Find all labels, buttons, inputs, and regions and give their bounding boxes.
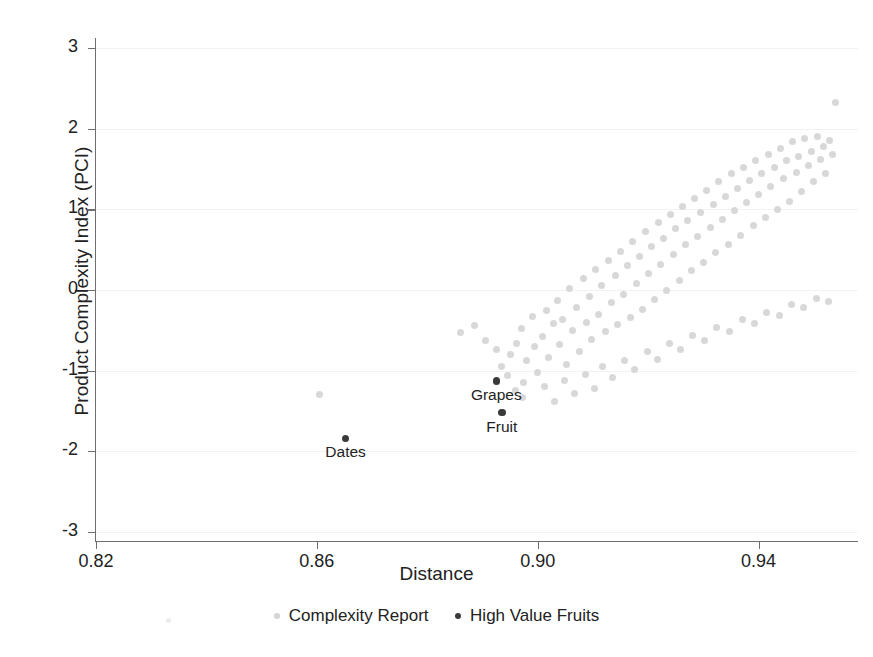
data-point-complexity-report: [795, 153, 802, 160]
data-point-complexity-report: [588, 336, 595, 343]
data-point-complexity-report: [808, 148, 815, 155]
data-point-complexity-report: [559, 316, 566, 323]
data-point-complexity-report: [518, 325, 525, 332]
data-point-complexity-report: [556, 341, 563, 348]
data-point-complexity-report: [571, 390, 578, 397]
legend-marker-icon-complexity-report: [274, 613, 280, 619]
data-point-complexity-report: [694, 233, 701, 240]
y-tick-mark: [88, 209, 96, 210]
data-point-label-grapes: Grapes: [466, 386, 526, 404]
data-point-complexity-report: [677, 346, 684, 353]
y-tick-mark: [88, 129, 96, 130]
data-point-complexity-report: [810, 178, 817, 185]
data-point-complexity-report: [636, 253, 643, 260]
data-point-complexity-report: [777, 145, 784, 152]
data-point-complexity-report: [832, 99, 839, 106]
y-tick-label: 2: [18, 117, 78, 138]
legend-entry-complexity-report[interactable]: Complexity Report: [274, 606, 429, 626]
data-point-complexity-report: [700, 259, 707, 266]
data-point-complexity-report: [621, 357, 628, 364]
data-point-complexity-report: [513, 340, 520, 347]
data-point-complexity-report: [592, 266, 599, 273]
data-point-complexity-report: [676, 277, 683, 284]
data-point-complexity-report: [599, 363, 606, 370]
data-point-complexity-report: [763, 309, 770, 316]
scatter-chart-figure: Product Complexity Index (PCI) 3210-1-2-…: [0, 0, 873, 657]
y-tick-mark: [88, 451, 96, 452]
data-point-complexity-report: [731, 207, 738, 214]
data-point-complexity-report: [703, 187, 710, 194]
legend-label-high-value-fruits: High Value Fruits: [470, 606, 599, 626]
y-tick-label: -2: [18, 439, 78, 460]
data-point-complexity-report: [666, 340, 673, 347]
data-point-complexity-report: [814, 133, 821, 140]
data-point-complexity-report: [582, 371, 589, 378]
data-point-complexity-report: [722, 193, 729, 200]
data-point-complexity-report: [710, 201, 717, 208]
data-point-complexity-report: [541, 383, 548, 390]
data-point-complexity-report: [651, 296, 658, 303]
data-point-complexity-report: [529, 313, 536, 320]
data-point-complexity-report: [817, 156, 824, 163]
data-point-complexity-report: [545, 354, 552, 361]
data-point-complexity-report: [813, 295, 820, 302]
x-tick-mark: [538, 542, 539, 549]
data-point-complexity-report: [798, 188, 805, 195]
data-point-complexity-report: [609, 374, 616, 381]
data-point-complexity-report: [471, 322, 478, 329]
data-point-complexity-report: [531, 343, 538, 350]
data-point-complexity-report: [801, 135, 808, 142]
data-point-complexity-report: [493, 346, 500, 353]
data-point-complexity-report: [660, 235, 667, 242]
data-point-complexity-report: [639, 306, 646, 313]
data-point-complexity-report: [670, 251, 677, 258]
data-point-label-fruit: Fruit: [472, 418, 532, 436]
data-point-complexity-report: [707, 224, 714, 231]
plot-area: GrapesFruitDates: [96, 40, 858, 540]
data-point-complexity-report: [672, 225, 679, 232]
data-point-label-dates: Dates: [316, 443, 376, 461]
data-point-complexity-report: [654, 356, 661, 363]
data-point-complexity-report: [602, 328, 609, 335]
x-tick-mark: [96, 542, 97, 549]
legend-entry-high-value-fruits[interactable]: High Value Fruits: [455, 606, 600, 626]
data-point-complexity-report: [645, 270, 652, 277]
data-point-complexity-report: [614, 321, 621, 328]
data-point-complexity-report: [684, 217, 691, 224]
data-point-complexity-report: [780, 175, 787, 182]
data-point-complexity-report: [631, 366, 638, 373]
data-point-complexity-report: [586, 293, 593, 300]
data-point-complexity-report: [776, 312, 783, 319]
data-point-high-value-fruit: [342, 435, 350, 443]
data-point-complexity-report: [663, 287, 670, 294]
data-point-complexity-report: [740, 164, 747, 171]
y-tick-label: -1: [18, 359, 78, 380]
data-point-complexity-report: [788, 301, 795, 308]
data-point-high-value-fruit: [498, 409, 506, 417]
data-point-complexity-report: [755, 191, 762, 198]
data-point-complexity-report: [719, 216, 726, 223]
data-point-complexity-report: [642, 228, 649, 235]
data-point-complexity-report: [774, 206, 781, 213]
data-point-complexity-report: [316, 391, 323, 398]
data-point-complexity-report: [737, 232, 744, 239]
data-point-complexity-report: [746, 177, 753, 184]
data-point-complexity-report: [750, 222, 757, 229]
data-point-complexity-report: [504, 372, 511, 379]
chart-legend: Complexity Report High Value Fruits: [0, 606, 873, 626]
data-point-complexity-report: [624, 262, 631, 269]
x-axis-line: [95, 541, 858, 542]
data-point-complexity-report: [800, 304, 807, 311]
data-point-complexity-report: [591, 385, 598, 392]
data-point-complexity-report: [771, 164, 778, 171]
data-point-complexity-report: [715, 178, 722, 185]
data-point-complexity-report: [783, 157, 790, 164]
data-point-complexity-report: [482, 337, 489, 344]
data-point-complexity-report: [805, 162, 812, 169]
y-tick-mark: [88, 532, 96, 533]
data-point-complexity-report: [644, 348, 651, 355]
data-point-complexity-report: [726, 328, 733, 335]
data-point-complexity-report: [762, 214, 769, 221]
data-point-complexity-report: [826, 137, 833, 144]
data-point-complexity-report: [608, 299, 615, 306]
